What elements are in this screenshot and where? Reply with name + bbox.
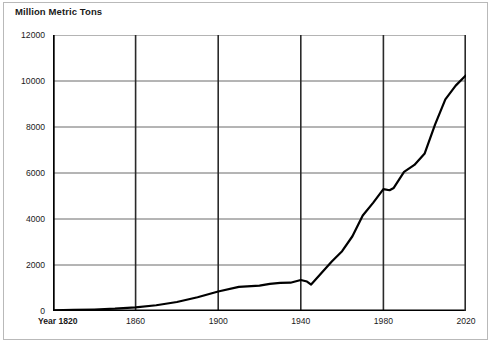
horizontal-gridlines <box>53 35 466 265</box>
y-tick-label: 6000 <box>0 168 45 178</box>
y-tick-label: 12000 <box>0 30 45 40</box>
y-tick-label: 8000 <box>0 122 45 132</box>
plot-svg <box>53 35 466 311</box>
y-tick-label: 0 <box>0 306 45 316</box>
x-tick-label: 1940 <box>291 316 310 326</box>
plot-area <box>53 35 466 311</box>
chart-title: Million Metric Tons <box>15 6 102 17</box>
y-tick-label: 2000 <box>0 260 45 270</box>
x-tick-label: 1980 <box>374 316 393 326</box>
y-tick-label: 10000 <box>0 76 45 86</box>
x-tick-label: 1860 <box>126 316 145 326</box>
x-tick-label: 2020 <box>456 316 475 326</box>
y-tick-label: 4000 <box>0 214 45 224</box>
chart-figure: Million Metric Tons 02000400060008000100… <box>0 0 491 353</box>
data-series-line <box>53 75 466 310</box>
x-tick-label: 1900 <box>209 316 228 326</box>
x-tick-label: Year 1820 <box>38 316 78 326</box>
